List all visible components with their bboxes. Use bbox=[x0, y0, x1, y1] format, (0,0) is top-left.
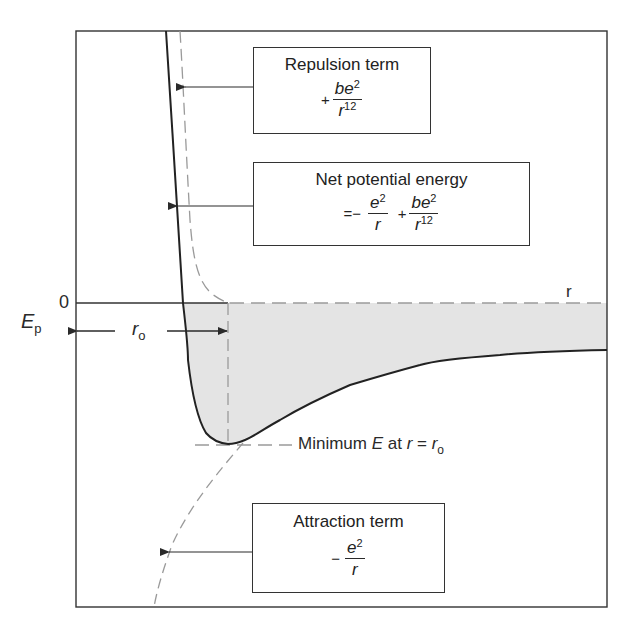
attraction-term-title: Attraction term bbox=[253, 512, 444, 532]
equals-minus-sign: =− bbox=[344, 205, 362, 222]
numerator-exponent: 2 bbox=[430, 192, 436, 204]
minimum-prefix: Minimum bbox=[298, 434, 372, 453]
minimum-at-text: at bbox=[383, 434, 407, 453]
plus-sign: + bbox=[398, 205, 407, 222]
repulsion-term-title: Repulsion term bbox=[254, 55, 430, 75]
potential-energy-diagram: 0 Ep r ro Repulsion term + be2 r12 Net p… bbox=[0, 0, 638, 636]
repulsion-curve bbox=[180, 31, 230, 303]
repulsion-fraction: be2 r12 bbox=[333, 80, 362, 119]
y-axis-label-sub: p bbox=[34, 321, 41, 336]
numerator-exponent: 2 bbox=[357, 537, 363, 549]
repulsion-term-box: Repulsion term + be2 r12 bbox=[253, 47, 431, 134]
shaded-well-region bbox=[183, 303, 607, 444]
numerator-text: be bbox=[411, 193, 430, 212]
repulsion-fraction: be2 r12 bbox=[409, 194, 438, 233]
minimum-equals: = bbox=[412, 434, 431, 453]
numerator-text: e bbox=[370, 193, 379, 212]
y-axis-label-main: E bbox=[21, 310, 34, 332]
numerator-exponent: 2 bbox=[354, 78, 360, 90]
y-axis-label: Ep bbox=[21, 310, 42, 333]
attraction-term-box: Attraction term − e2 r bbox=[252, 503, 445, 593]
fraction-numerator: be2 bbox=[409, 194, 438, 214]
attraction-fraction: e2 r bbox=[368, 194, 388, 233]
zero-label: 0 bbox=[59, 292, 69, 313]
r0-label: ro bbox=[132, 318, 146, 340]
minimum-r0-sub: o bbox=[437, 443, 444, 457]
denominator-exponent: 12 bbox=[421, 214, 433, 226]
fraction-denominator: r12 bbox=[338, 100, 356, 119]
numerator-text: be bbox=[335, 79, 354, 98]
plus-sign: + bbox=[321, 91, 330, 108]
fraction-denominator: r bbox=[375, 214, 381, 233]
net-potential-energy-title: Net potential energy bbox=[254, 170, 529, 190]
attraction-curve bbox=[154, 443, 243, 607]
repulsion-term-formula: + be2 r12 bbox=[254, 80, 430, 119]
x-axis-label: r bbox=[566, 282, 572, 302]
numerator-exponent: 2 bbox=[380, 192, 386, 204]
minimum-energy-label: Minimum E at r = ro bbox=[298, 434, 444, 454]
net-potential-energy-formula: =− e2 r + be2 r12 bbox=[254, 194, 529, 233]
minimum-e-symbol: E bbox=[372, 434, 383, 453]
denominator-exponent: 12 bbox=[344, 100, 356, 112]
fraction-denominator: r12 bbox=[415, 214, 433, 233]
fraction-numerator: e2 bbox=[368, 194, 388, 214]
minus-sign: − bbox=[331, 550, 340, 567]
fraction-numerator: be2 bbox=[333, 80, 362, 100]
r0-label-sub: o bbox=[138, 328, 145, 343]
net-potential-energy-box: Net potential energy =− e2 r + be2 r12 bbox=[253, 162, 530, 246]
fraction-numerator: e2 bbox=[345, 539, 365, 559]
attraction-term-formula: − e2 r bbox=[253, 539, 444, 578]
fraction-denominator: r bbox=[352, 559, 358, 578]
numerator-text: e bbox=[347, 538, 356, 557]
attraction-fraction: e2 r bbox=[345, 539, 365, 578]
